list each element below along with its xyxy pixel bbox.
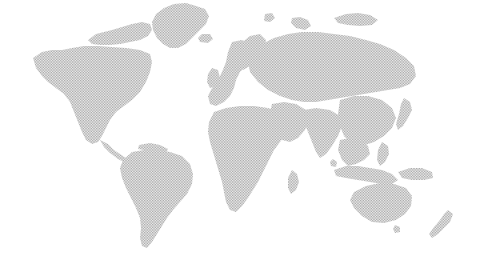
world-map-figure: GreenlandArctic Canada ArchipelagoNorth … <box>0 0 478 269</box>
world-map-svg: GreenlandArctic Canada ArchipelagoNorth … <box>0 0 478 269</box>
